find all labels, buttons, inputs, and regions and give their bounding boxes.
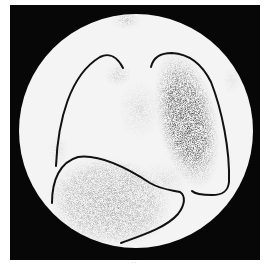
caption: · · [0,259,268,265]
scan-image [0,0,268,267]
